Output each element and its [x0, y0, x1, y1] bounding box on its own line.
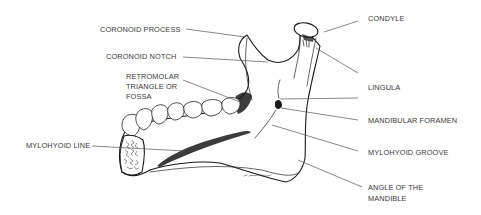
leader-angle — [298, 160, 362, 187]
label-angle-1: ANGLE OF THE — [368, 183, 423, 193]
label-mylohyoid-groove: MYLOHYOID GROOVE — [368, 148, 448, 158]
label-angle-2: MANDIBLE — [368, 194, 407, 204]
label-mandibular-foramen: MANDIBULAR FORAMEN — [368, 116, 457, 126]
label-lingula: LINGULA — [368, 83, 400, 93]
mandible-diagram: CORONOID PROCESS CORONOID NOTCH RETROMOL… — [0, 0, 481, 215]
leader-coronoid-process — [186, 29, 245, 37]
label-retromolar-1: RETROMOLAR — [126, 72, 179, 82]
leader-retromolar — [183, 80, 240, 102]
leader-condyle — [324, 21, 358, 32]
label-retromolar-3: FOSSA — [126, 92, 152, 102]
label-retromolar-2: TRIANGLE OR — [126, 82, 177, 92]
label-mylohyoid-line: MYLOHYOID LINE — [26, 141, 90, 151]
label-coronoid-process: CORONOID PROCESS — [100, 25, 180, 35]
cancellous-bone-section — [120, 135, 144, 175]
label-coronoid-notch: CORONOID NOTCH — [106, 52, 176, 62]
label-condyle: CONDYLE — [368, 14, 404, 24]
leader-lingula — [316, 48, 358, 73]
